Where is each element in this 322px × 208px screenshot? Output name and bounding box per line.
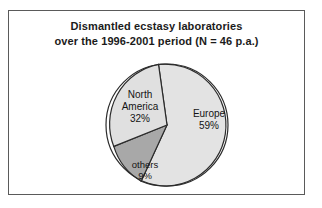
pie-chart: North America 32% Europe 59% others 9% <box>9 11 304 194</box>
pie-chart-svg <box>9 11 306 196</box>
chart-frame: Dismantled ecstasy laboratories over the… <box>8 10 305 195</box>
